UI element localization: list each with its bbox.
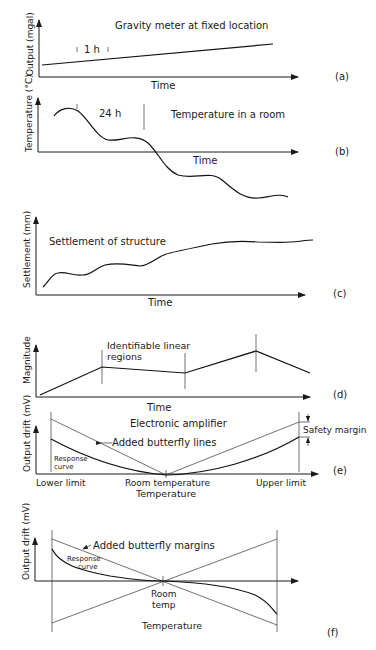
panel-f: Added butterfly margins Response curve R… (21, 503, 338, 638)
panel-tag: (b) (335, 146, 349, 157)
interval-label: 1 h (84, 44, 100, 55)
tick-room-temperature: Room temperature (125, 478, 211, 488)
figure-canvas: 1 h Gravity meter at fixed location Time… (0, 0, 376, 650)
response-label-line2: curve (78, 563, 98, 571)
response-label-line1: Response (67, 555, 101, 563)
panel-title: Gravity meter at fixed location (115, 20, 268, 31)
x-axis-label: Temperature (135, 488, 196, 499)
y-axis-label: Output drift (mV) (22, 395, 32, 472)
y-axis-label: Settlement (mm) (22, 211, 32, 288)
tick-upper-limit: Upper limit (256, 478, 306, 488)
panel-tag: (f) (327, 627, 338, 638)
panel-a: 1 h Gravity meter at fixed location Time… (25, 12, 349, 91)
annotation-line1: Identifiable linear (107, 340, 190, 351)
panel-tag: (d) (333, 389, 347, 400)
settlement-curve (43, 240, 313, 287)
piecewise-curve (40, 351, 310, 395)
y-axis-label: Temperature (°C) (24, 74, 34, 153)
butterfly-label: Added butterfly lines (112, 437, 216, 448)
panel-e: Electronic amplifier Added butterfly lin… (22, 395, 366, 499)
y-axis-label: Output (mgal) (25, 12, 35, 76)
panel-b: 24 h Temperature in a room Time Temperat… (24, 74, 349, 198)
panel-title: Electronic amplifier (130, 418, 228, 429)
room-label-line1: Room (151, 589, 177, 599)
panel-title: Temperature in a room (170, 109, 285, 120)
panel-d: Identifiable linear regions Time Magnitu… (22, 334, 347, 413)
butterfly-pointer (83, 545, 91, 549)
panel-c: Settlement of structure Time Settlement … (22, 211, 346, 308)
x-axis-label: Time (147, 297, 172, 308)
temperature-curve (54, 108, 288, 198)
response-label-line1: Response (54, 455, 88, 463)
x-axis-label: Time (146, 402, 171, 413)
annotation-line2: regions (107, 351, 142, 362)
panel-tag: (c) (333, 288, 346, 299)
x-axis-label: Time (192, 155, 217, 166)
tick-lower-limit: Lower limit (36, 478, 86, 488)
x-axis-label: Time (150, 80, 175, 91)
butterfly-label: Added butterfly margins (93, 540, 215, 551)
y-axis-label: Output drift (mV) (21, 503, 31, 580)
x-axis-label: Temperature (141, 620, 202, 631)
safety-margin-label: Safety margin (303, 425, 366, 435)
panel-tag: (a) (335, 71, 349, 82)
panel-tag: (e) (333, 465, 347, 476)
panel-title: Settlement of structure (49, 236, 166, 247)
response-label-line2: curve (54, 463, 74, 471)
interval-label: 24 h (99, 108, 121, 119)
room-label-line2: temp (152, 600, 176, 610)
butterfly-line-right (166, 422, 299, 475)
y-axis-label: Magnitude (22, 336, 32, 384)
